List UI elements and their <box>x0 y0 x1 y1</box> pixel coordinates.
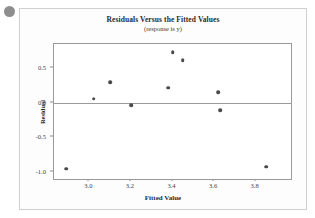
y-tick-label: 0.0 <box>38 98 46 105</box>
x-axis-title: Fitted Value <box>20 194 306 202</box>
y-tick-label: 0.5 <box>38 64 46 71</box>
chart-title: Residuals Versus the Fitted Values <box>20 15 306 24</box>
x-tick-label: 3.4 <box>167 182 175 189</box>
x-tick-label: 3.2 <box>126 182 134 189</box>
y-tick-label: -0.5 <box>36 133 46 140</box>
gray-bullet-marker <box>4 6 15 17</box>
scatter-point <box>219 109 223 113</box>
x-tick-label: 3.8 <box>251 182 259 189</box>
scatter-point <box>108 80 112 84</box>
x-tick-label: 3.0 <box>84 182 92 189</box>
scatter-point <box>92 97 96 101</box>
x-tick-label: 3.6 <box>209 182 217 189</box>
plot-area <box>53 43 292 180</box>
zero-reference-line <box>54 103 291 104</box>
scatter-point <box>181 58 185 62</box>
scatter-point <box>129 103 133 107</box>
scatter-point <box>167 86 171 90</box>
scatter-point <box>65 167 69 171</box>
chart-subtitle: (response is y) <box>20 25 306 32</box>
scatter-point <box>264 165 268 169</box>
screenshot-root: Residuals Versus the Fitted Values (resp… <box>0 0 315 218</box>
scatter-point <box>171 51 175 55</box>
y-tick-label: -1.0 <box>36 168 46 175</box>
chart-figure-panel: Residuals Versus the Fitted Values (resp… <box>19 8 307 210</box>
scatter-point <box>216 91 220 95</box>
